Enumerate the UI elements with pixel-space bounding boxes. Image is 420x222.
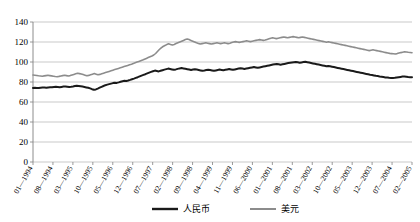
chart-container: 020406080100120140 01—199408—199403—1995… [0, 0, 420, 222]
legend-label-rmb: 人民币 [183, 204, 210, 214]
y-axis-tick-label: 20 [19, 137, 29, 147]
y-axis-tick-label: 40 [19, 117, 29, 127]
x-axis-tick-labels: 01—199408—199403—199510—199505—199612—19… [12, 164, 414, 195]
y-axis-tick-label: 140 [15, 17, 29, 27]
y-axis-tick-label: 60 [19, 97, 29, 107]
y-axis-tick-labels: 020406080100120140 [15, 17, 34, 167]
y-axis-tick-label: 100 [15, 57, 29, 67]
y-axis-tick-label: 80 [19, 77, 29, 87]
x-axis-tick-label: 02—2005 [391, 164, 414, 195]
y-axis-tick-label: 120 [15, 37, 29, 47]
legend-label-usd: 美元 [281, 203, 299, 214]
x-axis-tickmarks [33, 162, 412, 165]
line-chart: 020406080100120140 01—199408—199403—1995… [0, 0, 420, 222]
chart-legend: 人民币美元 [152, 203, 299, 214]
